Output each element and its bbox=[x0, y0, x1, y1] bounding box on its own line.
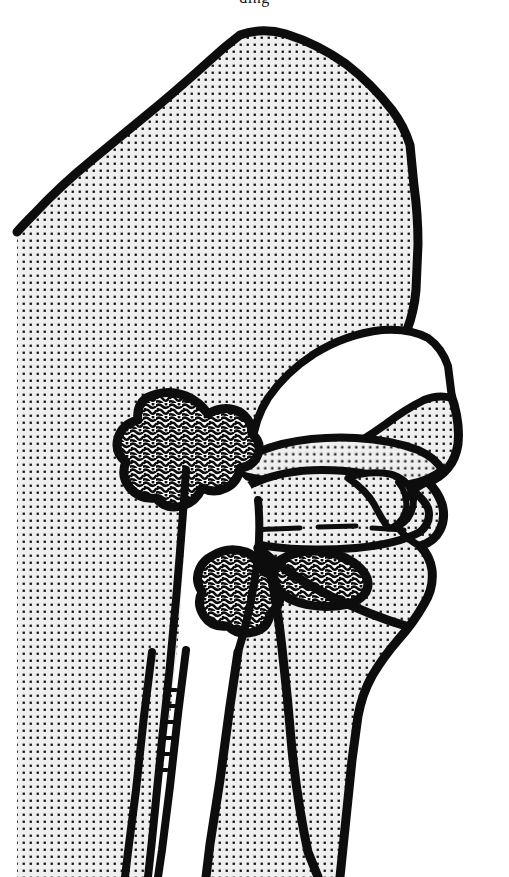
lingual-tonsil bbox=[274, 551, 368, 606]
anatomical-figure: ding bbox=[0, 0, 509, 877]
head-neck-sagittal-section-illustration bbox=[0, 0, 509, 877]
